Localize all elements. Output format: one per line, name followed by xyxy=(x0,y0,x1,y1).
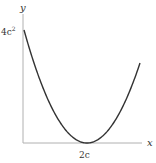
y-axis-label: y xyxy=(19,2,26,13)
x-tick-label: 2c xyxy=(79,150,90,160)
x-axis-label: x xyxy=(147,137,153,148)
parabola-curve xyxy=(24,30,140,143)
parabola-chart: y x 4c2 2c xyxy=(0,0,156,163)
y-tick-label: 4c2 xyxy=(1,25,16,37)
